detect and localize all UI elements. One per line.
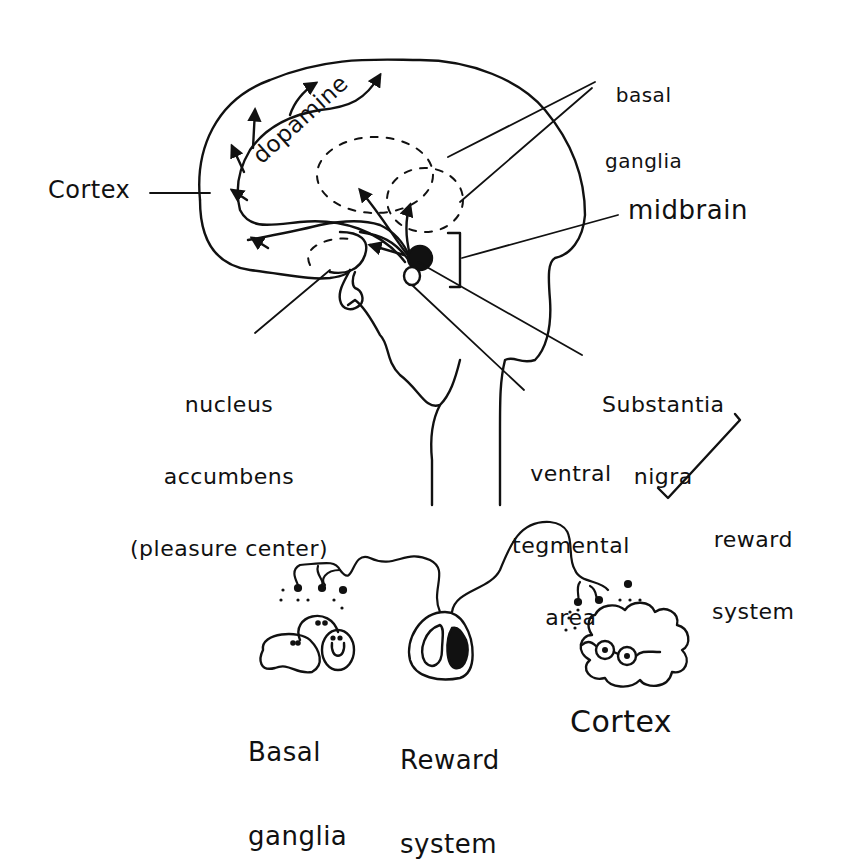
- label-nucleus-accumbens: nucleus accumbens (pleasure center): [130, 345, 328, 585]
- label-reward-line1: reward: [712, 528, 795, 552]
- label-vta-line3: area: [512, 606, 630, 630]
- label-basal-ganglia-top: basal ganglia: [605, 40, 682, 194]
- midbrain-nuclei: [404, 233, 460, 287]
- label-bottom-basal-line1: Basal: [248, 738, 347, 766]
- label-bottom-basal-line2: ganglia: [248, 822, 347, 850]
- label-nucleus-line1: nucleus: [130, 393, 328, 417]
- label-cortex-bottom: Cortex: [570, 708, 672, 736]
- label-nucleus-line2: accumbens: [130, 465, 328, 489]
- label-basal-ganglia-bottom: Basal ganglia: [248, 682, 347, 863]
- label-cortex: Cortex: [48, 178, 130, 202]
- label-ventral-tegmental-area: ventral tegmental area: [512, 414, 630, 654]
- label-vta-line2: tegmental: [512, 534, 630, 558]
- label-bottom-reward-line1: Reward: [400, 746, 500, 774]
- reward-system-cartoon: [409, 612, 473, 679]
- label-midbrain: midbrain: [628, 196, 748, 224]
- label-basal-ganglia-line1: basal: [605, 84, 682, 106]
- label-nucleus-line3: (pleasure center): [130, 537, 328, 561]
- label-reward-system-top: reward system: [712, 480, 795, 648]
- label-bottom-reward-line2: system: [400, 830, 500, 858]
- label-reward-system-bottom: Reward system: [400, 690, 500, 863]
- basal-ganglia-dashes: [308, 137, 463, 265]
- basal-ganglia-cartoon: [261, 616, 354, 673]
- label-basal-ganglia-line2: ganglia: [605, 150, 682, 172]
- label-reward-line2: system: [712, 600, 795, 624]
- vta-dot: [404, 267, 420, 285]
- label-vta-line1: ventral: [512, 462, 630, 486]
